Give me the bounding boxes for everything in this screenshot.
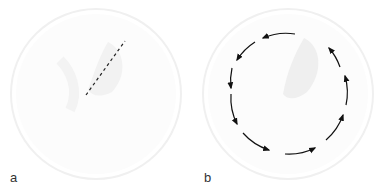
panel-label-a: a [10,170,17,185]
panel-a: a [0,0,189,195]
panel-label-b: b [204,170,211,185]
panel-a-graphic [0,0,189,195]
panel-b-graphic [189,0,378,195]
panel-b: b [189,0,378,195]
